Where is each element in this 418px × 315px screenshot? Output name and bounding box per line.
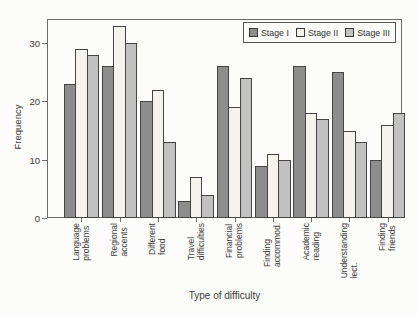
bar <box>125 43 138 218</box>
legend-label: Stage I <box>261 28 289 38</box>
legend-swatch-icon <box>345 28 354 37</box>
category-label: Different food <box>148 223 167 255</box>
y-tick-mark <box>42 218 47 219</box>
y-axis-title: Frequency <box>12 105 23 150</box>
x-tick-mark <box>388 218 389 222</box>
bar <box>163 142 176 218</box>
bar <box>240 78 253 218</box>
bar <box>87 55 100 218</box>
category-label: Financial problems <box>225 223 244 258</box>
x-axis-title: Type of difficulty <box>47 290 402 301</box>
legend-label: Stage III <box>357 28 390 38</box>
legend-item: Stage III <box>345 28 390 38</box>
x-tick-mark <box>120 218 121 222</box>
x-tick-mark <box>273 218 274 222</box>
legend: Stage IStage IIStage III <box>243 22 396 43</box>
bar <box>201 195 214 218</box>
bar <box>316 119 329 218</box>
bar <box>278 160 291 218</box>
legend-label: Stage II <box>308 28 338 38</box>
bar-group <box>102 26 138 218</box>
legend-swatch-icon <box>249 28 258 37</box>
x-tick-mark <box>158 218 159 222</box>
y-tick-mark <box>42 160 47 161</box>
x-tick-mark <box>311 218 312 222</box>
bar-group <box>255 154 291 218</box>
bar-group <box>140 90 176 218</box>
bar-group <box>293 66 329 218</box>
bar-group <box>332 72 368 218</box>
x-tick-mark <box>196 218 197 222</box>
y-tick-mark <box>42 101 47 102</box>
x-tick-mark <box>349 218 350 222</box>
y-tick-label: 30 <box>10 38 40 49</box>
category-label: Understanding lect. <box>340 223 359 278</box>
category-label: Travel difficulties <box>187 223 206 260</box>
legend-swatch-icon <box>296 28 305 37</box>
bar <box>393 113 406 218</box>
y-tick-mark <box>42 43 47 44</box>
y-tick-label: 10 <box>10 154 40 165</box>
category-label: Language problems <box>72 223 91 261</box>
bar-group <box>217 66 253 218</box>
category-label: Academic reading <box>302 223 321 260</box>
bar-group <box>64 49 100 218</box>
bar-group <box>178 177 214 218</box>
legend-item: Stage I <box>249 28 289 38</box>
bar-group <box>370 113 406 218</box>
x-tick-mark <box>81 218 82 222</box>
category-label: Finding accommod. <box>263 223 282 267</box>
category-label: Finding friends <box>378 223 397 251</box>
bar-chart-figure: 0102030 Language problemsRegional accent… <box>0 0 418 315</box>
category-label: Regional accents <box>110 223 129 257</box>
y-tick-label: 0 <box>10 213 40 224</box>
x-tick-mark <box>235 218 236 222</box>
bar <box>355 142 368 218</box>
legend-item: Stage II <box>296 28 338 38</box>
